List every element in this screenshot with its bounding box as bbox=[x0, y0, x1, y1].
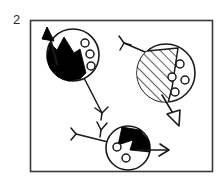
cell-bottom-center-inclusion bbox=[113, 143, 121, 151]
figure-drawing bbox=[0, 0, 224, 182]
cell-top-right-inclusion bbox=[181, 76, 189, 84]
cell-top-right-inclusion bbox=[168, 73, 176, 81]
figure-container: 2 bbox=[0, 0, 224, 182]
cell-top-right-inclusion bbox=[171, 88, 179, 96]
cell-bottom-center-inclusion bbox=[122, 154, 130, 162]
cell-top-left-inclusion bbox=[86, 50, 94, 58]
cell-top-left-inclusion bbox=[81, 39, 89, 47]
cell-top-right-inclusion bbox=[176, 60, 184, 68]
cell-top-left-inclusion bbox=[87, 62, 95, 70]
